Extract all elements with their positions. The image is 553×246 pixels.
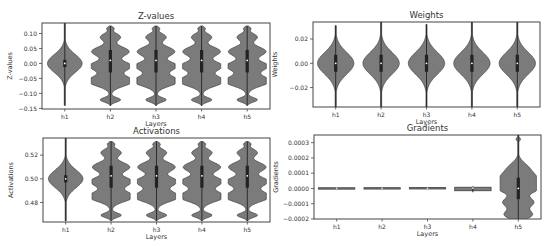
x-tick-label: h3 [153, 226, 161, 233]
x-tick-label: h3 [152, 113, 160, 120]
median-marker [110, 60, 112, 62]
violin-h4 [454, 22, 490, 107]
violin-h5 [499, 22, 535, 107]
violin-h1 [48, 138, 82, 221]
activations-chart: Activations0.520.500.48Activationsh1h2h3… [7, 126, 270, 241]
x-tick-label: h2 [107, 226, 115, 233]
chart-title: Weights [409, 10, 444, 20]
y-tick-label: 0.0000 [288, 185, 309, 192]
y-tick-label: 0.0003 [288, 139, 309, 146]
x-tick-label: h1 [62, 226, 70, 233]
median-marker [472, 187, 474, 189]
z-values-chart: Z-values0.100.050.00−0.05−0.10−0.15Z-val… [6, 11, 270, 128]
median-marker [246, 175, 248, 177]
median-marker [156, 175, 158, 177]
x-tick-label: h4 [198, 113, 206, 120]
median-marker [516, 62, 518, 64]
violin-h1 [318, 26, 354, 107]
x-tick-label: h5 [514, 223, 522, 230]
y-tick-label: −0.02 [290, 84, 309, 91]
y-tick-label: 0.52 [25, 151, 39, 158]
violin-h4 [182, 26, 220, 105]
y-axis-label: Activations [7, 161, 15, 198]
median-marker [427, 187, 429, 189]
violin-h5 [228, 26, 266, 105]
violin-h1 [319, 188, 355, 190]
violin-h3 [137, 26, 175, 105]
violin-h1 [47, 22, 82, 106]
x-tick-label: h2 [377, 111, 385, 118]
chart-title: Gradients [407, 123, 449, 133]
y-tick-label: 0.0002 [288, 154, 309, 161]
x-tick-label: h1 [61, 113, 69, 120]
figure: Z-values0.100.050.00−0.05−0.10−0.15Z-val… [0, 0, 553, 246]
violin-h3 [137, 142, 175, 221]
median-marker [380, 62, 382, 64]
x-tick-label: h4 [469, 223, 477, 230]
median-marker [381, 187, 383, 189]
x-tick-label: h3 [424, 223, 432, 230]
median-marker [426, 62, 428, 64]
median-marker [65, 178, 67, 180]
violin-h5 [500, 135, 536, 219]
median-marker [110, 175, 112, 177]
y-tick-label: 0.50 [25, 175, 39, 182]
y-tick-label: −0.15 [19, 105, 38, 112]
x-axis-label: Layers [417, 230, 439, 238]
x-tick-label: h1 [332, 111, 340, 118]
x-tick-label: h4 [198, 226, 206, 233]
violin-h3 [408, 24, 444, 107]
y-tick-label: 0.0001 [288, 169, 309, 176]
y-tick-label: −0.0002 [283, 215, 309, 222]
violin-h2 [92, 142, 130, 221]
y-tick-label: −0.0001 [283, 200, 309, 207]
weights-chart: Weights0.020.00−0.02Weightsh1h2h3h4h5Lay… [271, 10, 540, 126]
median-marker [201, 60, 203, 62]
violin-h5 [228, 142, 266, 221]
x-axis-label: Layers [146, 233, 168, 241]
x-tick-label: h5 [243, 226, 251, 233]
violin-h4 [455, 186, 491, 192]
y-axis-label: Gradients [272, 161, 280, 193]
x-tick-label: h4 [468, 111, 476, 118]
median-marker [201, 175, 203, 177]
x-tick-label: h3 [423, 111, 431, 118]
y-axis-label: Z-values [6, 52, 14, 80]
median-marker [471, 62, 473, 64]
x-tick-label: h1 [333, 223, 341, 230]
median-marker [335, 62, 337, 64]
median-marker [336, 188, 338, 190]
gradients-chart: Gradients0.00030.00020.00010.0000−0.0001… [272, 123, 541, 238]
median-marker [64, 63, 66, 65]
y-tick-label: 0.00 [295, 60, 309, 67]
x-tick-label: h5 [513, 111, 521, 118]
y-tick-label: 0.02 [295, 35, 309, 42]
x-tick-label: h2 [378, 223, 386, 230]
violin-h2 [91, 26, 129, 105]
median-marker [246, 60, 248, 62]
y-axis-label: Weights [271, 51, 279, 78]
chart-title: Activations [133, 126, 181, 136]
violin-h4 [183, 142, 221, 221]
median-marker [517, 188, 519, 190]
x-tick-label: h5 [243, 113, 251, 120]
y-tick-label: 0.10 [24, 30, 38, 37]
chart-title: Z-values [138, 11, 175, 21]
y-tick-label: 0.00 [24, 60, 38, 67]
violin-h2 [364, 187, 400, 189]
violin-h2 [363, 22, 399, 107]
violin-h3 [409, 187, 445, 189]
median-marker [155, 60, 157, 62]
y-tick-label: 0.48 [25, 199, 39, 206]
x-tick-label: h2 [107, 113, 115, 120]
y-tick-label: −0.05 [19, 75, 38, 82]
y-tick-label: 0.05 [24, 45, 38, 52]
y-tick-label: −0.10 [19, 90, 38, 97]
